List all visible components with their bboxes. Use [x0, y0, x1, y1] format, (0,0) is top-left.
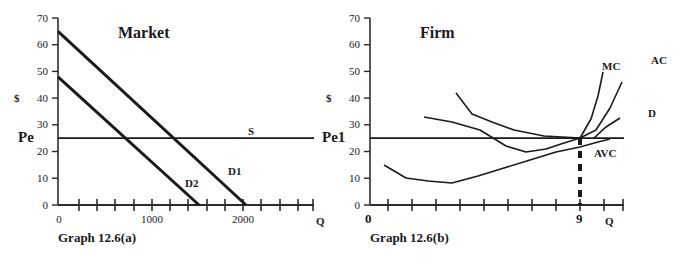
market-xtick-2000: 2000	[225, 214, 261, 225]
firm-title: Firm	[420, 25, 455, 41]
firm-curve-label-D: D	[648, 108, 656, 119]
firm-y-axis-label: $	[326, 93, 332, 104]
firm-y-ticks	[364, 18, 370, 205]
firm-price-line-label: Pe1	[322, 130, 345, 145]
firm-ytick-10: 10	[338, 173, 360, 184]
firm-caption: Graph 12.6(b)	[370, 231, 449, 244]
market-price-line-label: Pe	[18, 130, 34, 145]
market-curve-label-S: S	[248, 126, 254, 137]
firm-ytick-0: 0	[338, 200, 360, 211]
firm-marginal-cost-curve-MC	[424, 72, 603, 152]
market-ytick-0: 0	[26, 200, 48, 211]
market-ytick-50: 50	[26, 66, 48, 77]
market-chart-panel: 70 60 50 40 30 20 10 0 $ Pe Market S D1 …	[0, 0, 348, 263]
firm-ytick-50: 50	[338, 66, 360, 77]
firm-ytick-40: 40	[338, 93, 360, 104]
firm-ytick-20: 20	[338, 146, 360, 157]
market-demand-curve-D1	[58, 31, 246, 205]
market-y-ticks	[52, 18, 58, 205]
firm-ytick-60: 60	[338, 39, 360, 50]
market-ytick-60: 60	[26, 39, 48, 50]
market-curve-label-D2: D2	[185, 178, 198, 189]
firm-curve-label-AVC: AVC	[594, 148, 616, 159]
market-ytick-20: 20	[26, 146, 48, 157]
market-ytick-10: 10	[26, 173, 48, 184]
market-x-axis-label: Q	[316, 216, 325, 227]
market-xtick-1000: 1000	[134, 214, 170, 225]
market-ytick-70: 70	[26, 13, 48, 24]
firm-xtick-9: 9	[576, 212, 583, 225]
market-ytick-40: 40	[26, 93, 48, 104]
firm-curve-label-MC: MC	[602, 61, 620, 72]
firm-ytick-70: 70	[338, 13, 360, 24]
market-plot-svg	[0, 0, 348, 263]
firm-chart-panel: 70 60 50 40 30 20 10 0 $ Pe1 Firm MC AC …	[348, 0, 696, 263]
firm-plot-svg	[348, 0, 696, 263]
market-xtick-0: 0	[54, 214, 64, 225]
firm-average-cost-curve-AC	[456, 82, 622, 138]
market-title: Market	[118, 25, 170, 41]
firm-average-variable-cost-curve-AVC	[384, 139, 610, 183]
firm-x-axis-label: Q	[605, 216, 614, 227]
firm-curve-label-AC: AC	[651, 55, 667, 66]
firm-origin-label: 0	[365, 212, 372, 225]
market-caption: Graph 12.6(a)	[58, 231, 136, 244]
market-curve-label-D1: D1	[228, 166, 241, 177]
market-y-axis-label: $	[14, 93, 20, 104]
